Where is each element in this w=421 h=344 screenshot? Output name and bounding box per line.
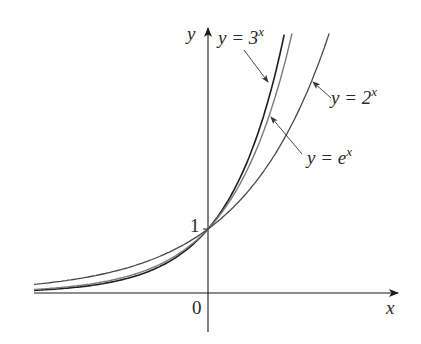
y-tick-label-1: 1 bbox=[190, 215, 200, 236]
label-3x-main: y = 3 bbox=[216, 27, 258, 48]
pointer-arrow-3x bbox=[244, 50, 268, 82]
label-ex-exp: x bbox=[345, 144, 352, 159]
exponential-functions-chart: y x 0 1 y = 3x y = ex y = 2x bbox=[0, 0, 421, 344]
label-2x-main: y = 2 bbox=[329, 87, 372, 108]
pointer-arrow-ex bbox=[271, 117, 302, 154]
label-2x: y = 2x bbox=[329, 84, 377, 108]
origin-label: 0 bbox=[192, 297, 202, 318]
curve-3-pow-x bbox=[34, 35, 284, 291]
x-axis-label: x bbox=[385, 297, 395, 318]
curve-e-pow-x bbox=[34, 34, 292, 290]
pointer-arrow-2x bbox=[313, 82, 331, 98]
curve-2-pow-x bbox=[34, 33, 329, 284]
label-3x: y = 3x bbox=[216, 24, 264, 48]
label-ex: y = ex bbox=[305, 144, 352, 168]
label-ex-main: y = e bbox=[305, 147, 346, 168]
y-axis-label: y bbox=[185, 23, 196, 44]
label-2x-exp: x bbox=[370, 84, 377, 99]
label-3x-exp: x bbox=[257, 24, 264, 39]
